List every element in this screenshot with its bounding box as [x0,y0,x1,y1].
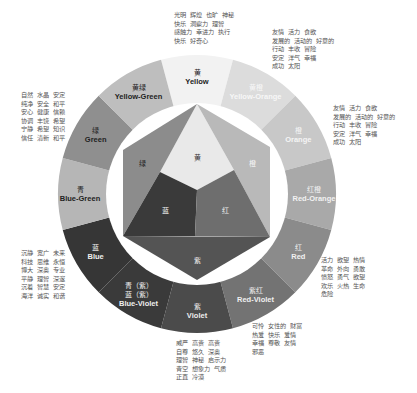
segment-en-label: Blue-Violet [119,299,159,308]
segment-en-label: Orange [285,135,311,144]
segment-en-label: Yellow [185,77,209,86]
segment-en-label: Violet [187,311,208,320]
hex-orange-label: 橙 [249,159,256,168]
blue-keywords: 沉静 宽广 未来 科技 思维 永恒 博大 深奥 专业 平静 理智 深邃 沉着 智… [21,249,65,301]
segment-en-label: Green [85,135,107,144]
violet-keywords: 威严 高贵 高贵 自尊 悠久 深奥 理智 神秘 启示力 青空 想象力 气质 正直… [176,339,226,382]
segment-en-label: Red [291,252,306,261]
segment-cn-label: 黄 [194,68,201,77]
segment-cn-label: 青（紫） [125,281,153,290]
segment-cn-label: 蓝（紫） [125,290,153,299]
segment-cn-label: 绿 [92,126,99,135]
segment-en-label: Yellow-Green [115,92,163,101]
yellow-keywords: 光明 辉煌 也旷 神秘 快乐 洞察力 理智 感触力 幸进力 执行 快乐 好奇心 [174,11,234,45]
red-violet-keywords: 可怜 女性的 财富 热爱 快乐 爱情 幸福 尊敬 友情 邪恶 [252,322,302,356]
yellow-orange-keywords: 友情 活力 食欲 发展的 活动的 好意的 行动 丰收 冒险 安定 洋气 幸福 成… [272,28,334,71]
orange-keywords: 友情 活力 食欲 发展的 活动的 好意的 行动 丰收 冒险 安定 洋气 幸福 成… [333,104,395,147]
segment-en-label: Yellow-Orange [229,92,281,101]
red-keywords: 活力 欲望 热情 革命 外向 勇敢 愤怒 勇气 欲望 欢乐 火热 生命 危险 [321,256,365,299]
segment-cn-label: 黄绿 [132,83,146,92]
segment-cn-label: 红 [295,243,302,252]
hex-yellow-label: 黄 [194,153,201,162]
hex-blue-label: 蓝 [162,206,169,215]
segment-en-label: Blue [88,252,104,261]
hex-green-label: 绿 [139,159,146,168]
segment-en-label: Red-Orange [293,194,336,203]
segment-en-label: Red-Violet [237,295,274,304]
hex-red-label: 红 [222,206,229,215]
segment-cn-label: 黄橙 [249,83,263,92]
segment-cn-label: 紫 [194,303,201,311]
segment-cn-label: 青 [77,185,84,194]
segment-cn-label: 红橙 [307,185,321,194]
green-keywords: 自然 水晶 安定 纯净 安全 和平 安心 健康 信赖 协调 丰饶 希望 宁静 希… [21,91,65,143]
segment-cn-label: 蓝 [92,243,99,252]
segment-cn-label: 紫红 [249,286,263,295]
segment-cn-label: 橙 [295,126,302,135]
color-wheel: 黄 橙 绿 蓝 红 紫 黄Yellow黄橙Yellow-Orange橙Orang… [0,0,417,393]
segment-en-label: Blue-Green [60,194,101,203]
hex-violet-label: 紫 [194,257,201,265]
